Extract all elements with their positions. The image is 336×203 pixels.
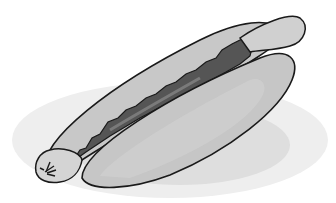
sausage-right-end <box>240 16 305 52</box>
hotdog-svg <box>0 0 336 203</box>
hotdog-illustration <box>0 0 336 203</box>
